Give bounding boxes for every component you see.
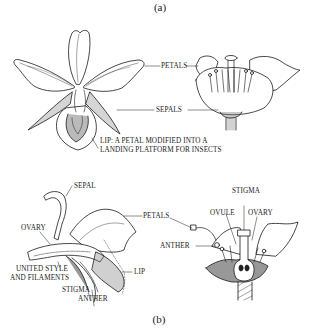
- label-sepals-a: SEPALS: [156, 106, 182, 114]
- label-ovary-b-right: OVARY: [248, 209, 273, 217]
- label-sepal-b: SEPAL: [74, 182, 96, 190]
- label-anther-b-left: ANTHER: [78, 295, 108, 303]
- regular-flower-illustration: [196, 56, 300, 131]
- label-lip-b: LIP: [134, 268, 145, 276]
- label-united-style-line2: AND FILAMENTS: [10, 274, 69, 282]
- label-ovule: OVULE: [210, 209, 235, 217]
- label-stigma-b-right: STIGMA: [232, 187, 260, 195]
- label-petals-b: PETALS: [143, 212, 169, 220]
- label-ovary-b-left: OVARY: [21, 224, 46, 232]
- label-lip-line1: LIP: A PETAL MODIFIED INTO A: [100, 137, 207, 145]
- panel-a-caption: (a): [140, 1, 180, 13]
- orchid-front-illustration: [14, 30, 144, 150]
- flower-section-illustration: [191, 222, 298, 300]
- label-stigma-b-left: STIGMA: [62, 286, 90, 294]
- label-anther-b-right: ANTHER: [160, 242, 190, 250]
- diagram-illustrations: [0, 0, 311, 333]
- panel-b-caption: (b): [139, 313, 179, 325]
- label-petals-a: PETALS: [161, 62, 187, 70]
- label-lip-line2: LANDING PLATFORM FOR INSECTS: [100, 146, 222, 154]
- label-united-style-line1: UNITED STYLE: [16, 265, 68, 273]
